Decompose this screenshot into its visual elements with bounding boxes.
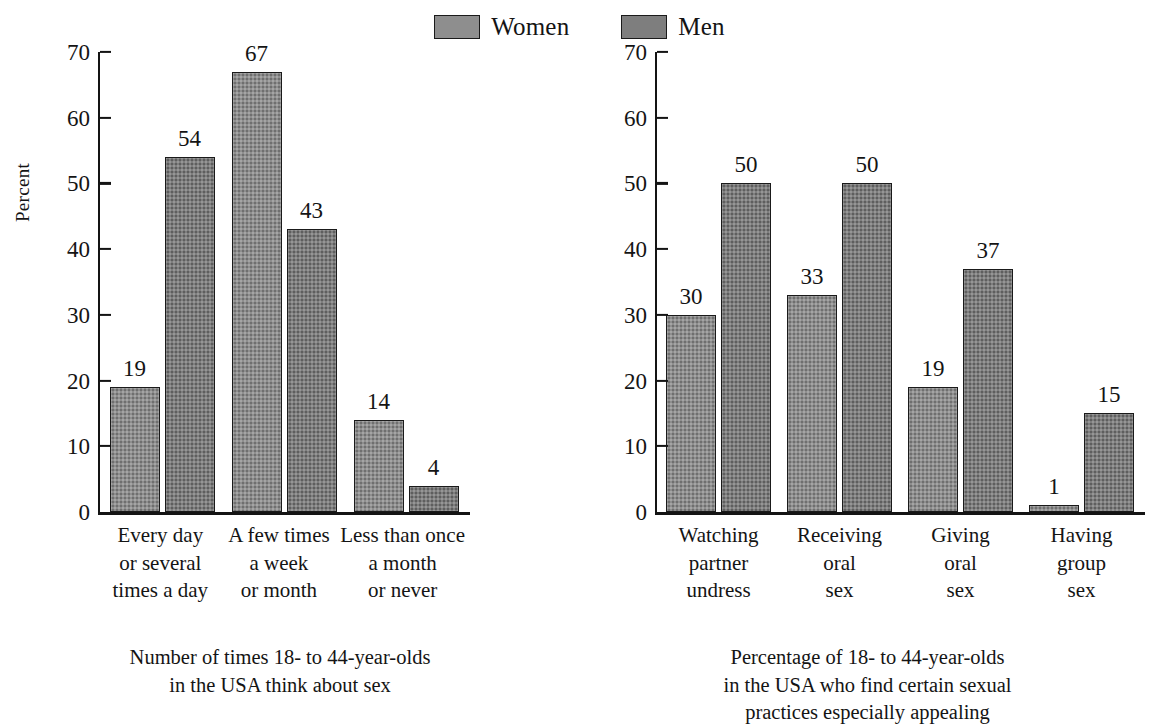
bar-value-label: 30 xyxy=(680,285,703,308)
legend-label-women: Women xyxy=(491,14,569,39)
bar-women: 67 xyxy=(232,72,282,512)
chart-caption-left: Number of times 18- to 44-year-oldsin th… xyxy=(10,644,550,699)
bar-value-label: 33 xyxy=(801,265,824,288)
category-label-line: sex xyxy=(781,577,898,605)
caption-line: in the USA who find certain sexual xyxy=(585,672,1150,700)
bar-men: 50 xyxy=(842,183,892,512)
bar-women: 1 xyxy=(1029,505,1079,512)
category-label: Receivingoralsex xyxy=(779,522,900,605)
y-tick-mark xyxy=(657,117,668,119)
legend-item-men: Men xyxy=(621,14,724,39)
y-tick-mark xyxy=(657,314,668,316)
y-tick-label: 50 xyxy=(34,172,90,195)
category-label-line: sex xyxy=(902,577,1019,605)
category-label-line: undress xyxy=(660,577,777,605)
y-tick-mark xyxy=(100,117,111,119)
bar-men: 4 xyxy=(409,486,459,512)
category-label: Havinggroupsex xyxy=(1021,522,1142,605)
category-label: Givingoralsex xyxy=(900,522,1021,605)
bar-groups-right: 305033501937115 xyxy=(658,52,1142,512)
y-tick-label: 0 xyxy=(591,501,647,524)
y-tick-label: 30 xyxy=(34,303,90,326)
bar-women: 19 xyxy=(908,387,958,512)
category-label-line: Giving xyxy=(902,522,1019,550)
category-label-line: oral xyxy=(902,550,1019,578)
bar-value-label: 37 xyxy=(977,239,1000,262)
y-tick-mark xyxy=(657,248,668,250)
bar-women: 19 xyxy=(110,387,160,512)
category-label-line: Receiving xyxy=(781,522,898,550)
bar-group: 3350 xyxy=(779,52,900,512)
bar-value-label: 54 xyxy=(178,127,201,150)
caption-line: in the USA think about sex xyxy=(10,672,550,700)
bar-men: 43 xyxy=(287,229,337,512)
bar-men: 15 xyxy=(1084,413,1134,512)
bar-group: 115 xyxy=(1021,52,1142,512)
y-tick-label: 60 xyxy=(34,106,90,129)
plot-area-left: Percent 010203040506070 19546743144 Ever… xyxy=(10,52,550,522)
y-tick-label: 40 xyxy=(591,238,647,261)
y-tick-label: 50 xyxy=(591,172,647,195)
chart-caption-right: Percentage of 18- to 44-year-oldsin the … xyxy=(585,644,1150,727)
y-tick-mark xyxy=(657,182,668,184)
y-tick-label: 20 xyxy=(34,369,90,392)
y-tick-mark xyxy=(100,248,111,250)
legend-swatch-men xyxy=(621,15,667,39)
category-label-line: oral xyxy=(781,550,898,578)
category-label-line: a week xyxy=(222,550,337,578)
bar-group: 1954 xyxy=(101,52,223,512)
bar-value-label: 43 xyxy=(300,199,323,222)
y-tick-label: 60 xyxy=(591,106,647,129)
caption-line: Percentage of 18- to 44-year-olds xyxy=(585,644,1150,672)
legend-swatch-women xyxy=(434,15,480,39)
caption-line: Number of times 18- to 44-year-olds xyxy=(10,644,550,672)
y-tick-label: 20 xyxy=(591,369,647,392)
category-label-line: Less than once xyxy=(340,522,465,550)
y-tick-label: 10 xyxy=(34,435,90,458)
y-tick-mark xyxy=(100,51,111,53)
chart-legend: Women Men xyxy=(0,14,1159,39)
y-tick-mark xyxy=(657,445,668,447)
category-label-line: A few times xyxy=(222,522,337,550)
category-label-line: partner xyxy=(660,550,777,578)
x-axis-categories-left: Every dayor severaltimes a dayA few time… xyxy=(101,522,467,605)
chart-panel-right: 010203040506070 305033501937115 Watching… xyxy=(585,52,1150,522)
bar-groups-left: 19546743144 xyxy=(101,52,467,512)
y-tick-mark xyxy=(100,182,111,184)
y-tick-label: 10 xyxy=(591,435,647,458)
category-label: A few timesa weekor month xyxy=(220,522,339,605)
bar-men: 54 xyxy=(165,157,215,512)
bar-group: 3050 xyxy=(658,52,779,512)
y-tick-label: 40 xyxy=(34,238,90,261)
chart-panel-left: Percent 010203040506070 19546743144 Ever… xyxy=(10,52,550,522)
category-label: Less than oncea monthor never xyxy=(338,522,467,605)
category-label-line: Watching xyxy=(660,522,777,550)
bar-value-label: 19 xyxy=(123,357,146,380)
bar-women: 14 xyxy=(354,420,404,512)
y-tick-label: 70 xyxy=(591,41,647,64)
y-tick-mark xyxy=(100,379,111,381)
category-label-line: times a day xyxy=(103,577,218,605)
bar-value-label: 14 xyxy=(367,390,390,413)
category-label-line: Having xyxy=(1023,522,1140,550)
bar-value-label: 67 xyxy=(245,42,268,65)
x-axis-line-right xyxy=(655,512,1145,515)
bar-women: 33 xyxy=(787,295,837,512)
x-axis-line-left xyxy=(98,512,470,515)
category-label-line: or never xyxy=(340,577,465,605)
y-tick-mark xyxy=(657,51,668,53)
bar-value-label: 4 xyxy=(428,456,440,479)
y-tick-mark xyxy=(100,314,111,316)
category-label-line: sex xyxy=(1023,577,1140,605)
y-tick-label: 70 xyxy=(34,41,90,64)
y-axis-ticks-right: 010203040506070 xyxy=(591,52,647,512)
y-tick-mark xyxy=(657,379,668,381)
bar-value-label: 50 xyxy=(856,153,879,176)
category-label-line: or several xyxy=(103,550,218,578)
caption-line: practices especially appealing xyxy=(585,699,1150,727)
category-label-line: Every day xyxy=(103,522,218,550)
bar-men: 37 xyxy=(963,269,1013,512)
y-axis-label-left: Percent xyxy=(12,163,34,222)
y-axis-ticks-left: 010203040506070 xyxy=(34,52,90,512)
